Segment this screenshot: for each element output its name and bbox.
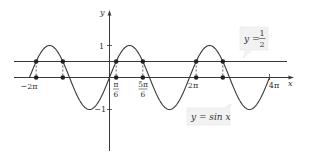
sine-graph: y = 1 2 y = sin x x y 1 −1 −2π π 6 5π 6 … [0,0,309,155]
x-tick-4pi: 4π [269,81,279,90]
x-axis: x [14,76,294,89]
intersection-dot [221,59,226,64]
intersection-dot [114,59,119,64]
y-axis: y 1 −1 [94,8,112,151]
intersection-dot [34,75,39,80]
intersection-dot [221,75,226,80]
sin-annotation: y = sin x [187,104,231,125]
sin-label: y = sin x [190,112,231,122]
y-tick-1: 1 [99,42,104,51]
intersection-dot [194,75,199,80]
half-line-annotation: y = 1 2 [240,27,268,58]
intersection-dot [141,75,146,80]
x-tick-pi6-den: 6 [114,90,119,99]
half-label-den: 2 [259,40,264,49]
intersection-dot [114,75,119,80]
intersection-dot [34,59,39,64]
x-axis-label: x [288,79,293,88]
intersection-dot [61,75,66,80]
y-tick-neg1: −1 [94,105,106,114]
x-tick-5pi6-den: 6 [141,90,146,99]
intersection-points [34,59,225,80]
y-axis-label: y [99,8,105,17]
x-tick-neg2pi: −2π [20,82,37,91]
half-label-prefix: y = [243,34,260,44]
half-label-num: 1 [259,29,264,38]
intersection-dot [61,59,66,64]
intersection-dot [141,59,146,64]
x-tick-pi6-num: π [114,80,119,89]
x-tick-2pi: 2π [188,81,198,90]
x-tick-5pi6-num: 5π [138,80,148,89]
intersection-dot [194,59,199,64]
